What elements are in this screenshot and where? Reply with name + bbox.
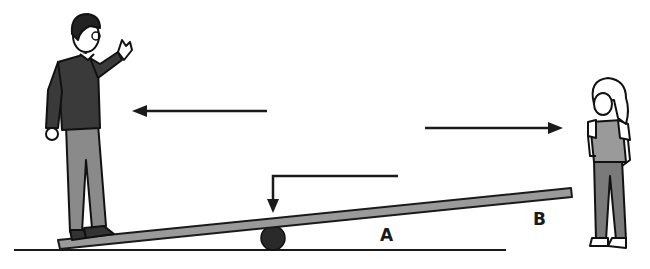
man-figure [46, 14, 132, 240]
seesaw-beam [58, 188, 572, 249]
seesaw-diagram: A B [0, 0, 650, 269]
diagram-canvas [0, 0, 650, 269]
arrow-left-icon [132, 105, 267, 117]
girl-figure [588, 78, 630, 248]
label-a: A [380, 225, 393, 245]
label-b: B [533, 209, 546, 229]
arrow-right-icon [425, 122, 563, 134]
pivot-fulcrum [261, 226, 285, 250]
